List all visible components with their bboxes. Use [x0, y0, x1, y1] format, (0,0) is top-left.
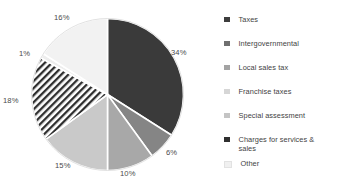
legend-item-label: Intergovernmental	[239, 39, 299, 48]
legend-item-label: Franchise taxes	[239, 87, 292, 96]
legend-item-label: Special assessment	[239, 111, 306, 120]
legend-item-label: Other	[241, 159, 260, 168]
pie-slices	[32, 19, 184, 171]
legend-swatch-icon	[224, 137, 230, 143]
pie-chart-figure: 34%6%10%15%18%1%16% TaxesIntergovernment…	[0, 0, 339, 186]
legend-item[interactable]: Franchise taxes	[224, 87, 337, 96]
pie-slice-label: 15%	[55, 161, 71, 170]
legend-swatch-icon	[224, 65, 230, 71]
chart-legend: TaxesIntergovernmentalLocal sales taxFra…	[224, 10, 337, 182]
legend-swatch-icon	[224, 161, 232, 169]
pie-svg	[0, 0, 215, 186]
pie-slice-label: 6%	[166, 148, 177, 157]
pie-slice-label: 1%	[19, 49, 30, 58]
legend-swatch-icon	[224, 17, 230, 23]
legend-item[interactable]: Special assessment	[224, 111, 337, 120]
pie-slice-label: 18%	[3, 96, 19, 105]
legend-item-label: Charges for services & sales	[239, 135, 315, 153]
legend-item[interactable]: Charges for services & sales	[224, 135, 337, 153]
pie-plot-area: 34%6%10%15%18%1%16%	[0, 0, 215, 186]
legend-swatch-icon	[224, 113, 230, 119]
legend-swatch-icon	[224, 89, 230, 95]
pie-slice-label: 34%	[171, 48, 187, 57]
legend-swatch-icon	[224, 41, 230, 47]
legend-item[interactable]: Local sales tax	[224, 63, 337, 72]
legend-item-label: Local sales tax	[239, 63, 289, 72]
legend-item[interactable]: Intergovernmental	[224, 39, 337, 48]
legend-item-label: Taxes	[239, 15, 259, 24]
pie-slice-label: 10%	[120, 169, 136, 178]
pie-slice-label: 16%	[54, 13, 70, 22]
legend-item[interactable]: Other	[224, 159, 337, 168]
legend-item[interactable]: Taxes	[224, 15, 337, 24]
